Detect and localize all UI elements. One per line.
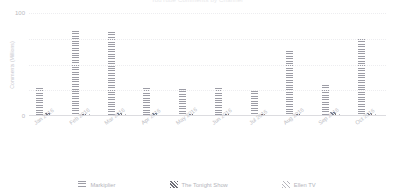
legend-item-1[interactable]: Markiplier bbox=[78, 181, 115, 188]
x-tick-cell: Jun 2016 bbox=[208, 117, 244, 159]
x-tick-cell: May 2016 bbox=[172, 117, 208, 159]
x-tick-cell: Oct 2016 bbox=[350, 117, 386, 159]
gridline bbox=[29, 90, 386, 91]
legend-label: The Tonight Show bbox=[182, 182, 228, 188]
x-axis-tick-labels: Jan 2016Feb 2016Mar 2016Apr 2016May 2016… bbox=[29, 117, 386, 159]
bar-1 bbox=[358, 39, 365, 116]
legend-item-3[interactable]: Ellen TV bbox=[282, 181, 316, 188]
y-axis-label: Comments (Millions) bbox=[9, 30, 15, 100]
crosshatch-swatch-icon bbox=[282, 181, 290, 188]
chart-title: YouTube Comments by Channel bbox=[0, 0, 394, 3]
bar-chart: YouTube Comments by Channel Comments (Mi… bbox=[0, 0, 394, 193]
x-tick-cell: Aug 2016 bbox=[279, 117, 315, 159]
gridline bbox=[29, 39, 386, 40]
legend-label: Ellen TV bbox=[294, 182, 316, 188]
chart-legend: MarkiplierThe Tonight ShowEllen TV bbox=[0, 181, 394, 188]
bar-1 bbox=[251, 91, 258, 116]
gridline bbox=[29, 13, 386, 14]
bar-1 bbox=[143, 88, 150, 116]
x-tick-cell: Mar 2016 bbox=[100, 117, 136, 159]
y-axis-tick: 100 bbox=[15, 10, 25, 16]
x-tick-cell: Sep 2016 bbox=[315, 117, 351, 159]
bar-1 bbox=[286, 51, 293, 116]
x-tick-cell: Jan 2016 bbox=[29, 117, 65, 159]
gridline bbox=[29, 65, 386, 66]
bar-1 bbox=[108, 32, 115, 116]
y-axis-tick: 0 bbox=[22, 113, 25, 119]
legend-label: Markiplier bbox=[90, 182, 115, 188]
x-tick-cell: Apr 2016 bbox=[136, 117, 172, 159]
x-tick-cell: Jul 2016 bbox=[243, 117, 279, 159]
plot-area: 0100 bbox=[29, 13, 386, 116]
diagonal-swatch-icon bbox=[170, 181, 178, 188]
legend-item-2[interactable]: The Tonight Show bbox=[170, 181, 228, 188]
bar-1 bbox=[72, 31, 79, 116]
stripes-swatch-icon bbox=[78, 181, 86, 188]
bar-1 bbox=[36, 88, 43, 116]
x-tick-cell: Feb 2016 bbox=[65, 117, 101, 159]
